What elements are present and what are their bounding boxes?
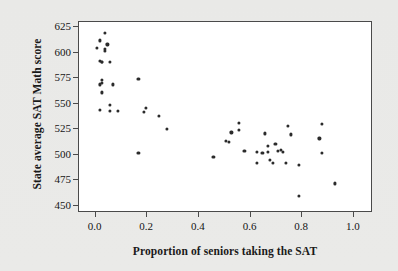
- data-point: [111, 83, 114, 86]
- data-point: [103, 32, 106, 35]
- x-tick-mark: [95, 211, 96, 217]
- y-tick-label: 500: [55, 148, 72, 160]
- data-point: [165, 128, 168, 131]
- x-tick-label: 0.8: [294, 220, 308, 232]
- x-tick-label: 0.4: [191, 220, 205, 232]
- y-tick-label: 550: [55, 97, 72, 109]
- scatter-plot-screenshot: State average SAT Math score 45047550052…: [0, 0, 398, 271]
- data-point: [266, 144, 269, 147]
- data-point: [282, 150, 285, 153]
- data-point: [320, 123, 323, 126]
- x-tick-label: 1.0: [346, 220, 360, 232]
- data-point: [261, 151, 264, 154]
- data-point: [98, 108, 101, 111]
- data-point: [212, 155, 215, 158]
- data-point: [256, 161, 259, 164]
- data-point: [108, 60, 111, 63]
- y-tick-label: 600: [55, 46, 72, 58]
- data-point: [243, 149, 246, 152]
- data-point: [95, 46, 98, 49]
- data-point: [137, 78, 140, 81]
- y-tick-mark: [73, 52, 79, 53]
- y-tick-mark: [73, 103, 79, 104]
- data-point: [101, 82, 104, 85]
- x-axis-title: Proportion of seniors taking the SAT: [78, 245, 372, 257]
- y-tick-label: 575: [55, 71, 72, 83]
- data-point: [297, 163, 300, 166]
- data-point: [266, 150, 269, 153]
- data-point: [256, 150, 259, 153]
- data-point: [318, 137, 321, 140]
- x-tick-mark: [198, 211, 199, 217]
- data-point: [333, 182, 336, 185]
- y-tick-label: 525: [55, 122, 72, 134]
- x-tick-label: 0.6: [243, 220, 257, 232]
- data-point: [101, 60, 104, 63]
- y-axis-title: State average SAT Math score: [31, 14, 43, 214]
- plot-area: 4504755005255505756006250.00.20.40.60.81…: [79, 22, 371, 211]
- data-point: [297, 194, 300, 197]
- data-point: [98, 83, 101, 86]
- data-point: [103, 49, 106, 52]
- data-point: [145, 106, 148, 109]
- data-point: [108, 103, 111, 106]
- y-tick-mark: [73, 154, 79, 155]
- y-tick-mark: [73, 205, 79, 206]
- data-point: [263, 132, 266, 135]
- data-point: [289, 133, 292, 136]
- y-tick-mark: [73, 77, 79, 78]
- data-point: [271, 161, 274, 164]
- data-point: [320, 151, 323, 154]
- x-tick-mark: [301, 211, 302, 217]
- x-tick-mark: [353, 211, 354, 217]
- x-tick-mark: [146, 211, 147, 217]
- y-tick-mark: [73, 179, 79, 180]
- data-point: [227, 140, 230, 143]
- data-point: [238, 122, 241, 125]
- y-tick-label: 625: [55, 20, 72, 32]
- data-point: [230, 131, 233, 134]
- data-point: [158, 114, 161, 117]
- data-point: [98, 39, 101, 42]
- data-point: [108, 109, 111, 112]
- y-tick-label: 450: [55, 199, 72, 211]
- data-point: [284, 161, 287, 164]
- data-point: [142, 110, 145, 113]
- data-point: [274, 142, 277, 145]
- plot-frame: 4504755005255505756006250.00.20.40.60.81…: [78, 21, 372, 212]
- x-tick-mark: [250, 211, 251, 217]
- y-tick-mark: [73, 26, 79, 27]
- data-point: [101, 91, 104, 94]
- data-point: [116, 109, 119, 112]
- y-tick-mark: [73, 128, 79, 129]
- data-point: [106, 43, 109, 46]
- y-tick-label: 475: [55, 173, 72, 185]
- x-tick-label: 0.2: [139, 220, 153, 232]
- data-point: [287, 125, 290, 128]
- x-tick-label: 0.0: [88, 220, 102, 232]
- data-point: [137, 151, 140, 154]
- data-point: [238, 129, 241, 132]
